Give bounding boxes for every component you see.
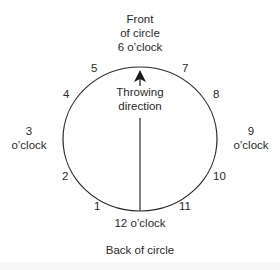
throwing-direction-label: Throwing direction bbox=[100, 85, 180, 113]
front-label-line3: 6 o’clock bbox=[100, 40, 180, 54]
back-of-circle-caption: Back of circle bbox=[80, 243, 200, 257]
hour-8: 8 bbox=[213, 88, 219, 100]
left-label-text: o’clock bbox=[2, 138, 56, 152]
front-label-line2: of circle bbox=[100, 26, 180, 40]
hour-7: 7 bbox=[182, 62, 188, 74]
throwing-label-line1: Throwing bbox=[100, 85, 180, 99]
bottom-band bbox=[0, 262, 280, 270]
hour-4: 4 bbox=[63, 88, 69, 100]
front-label: Front of circle 6 o’clock bbox=[100, 12, 180, 54]
hour-2: 2 bbox=[62, 170, 68, 182]
hour-11: 11 bbox=[179, 200, 191, 212]
hour-10: 10 bbox=[213, 170, 226, 182]
hour-1: 1 bbox=[94, 200, 100, 212]
throwing-label-line2: direction bbox=[100, 99, 180, 113]
front-label-line1: Front bbox=[100, 12, 180, 26]
left-label-number: 3 bbox=[2, 124, 56, 138]
bottom-label: 12 o’clock bbox=[90, 216, 190, 230]
right-label-number: 9 bbox=[224, 124, 278, 138]
left-label: 3 o’clock bbox=[2, 124, 56, 152]
hour-5: 5 bbox=[91, 62, 97, 74]
right-label-text: o’clock bbox=[224, 138, 278, 152]
right-label: 9 o’clock bbox=[224, 124, 278, 152]
